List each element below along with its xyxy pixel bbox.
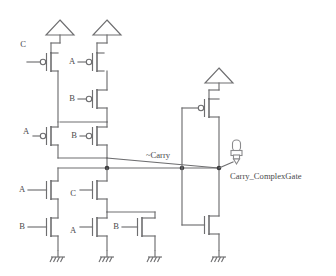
pmos-c-top-label: C xyxy=(20,39,26,49)
pmos-c-top[interactable]: C xyxy=(20,39,58,72)
pmos-a-top-label: A xyxy=(69,56,76,66)
pmos-a-top[interactable]: A xyxy=(69,52,104,72)
nmos-c-upper-mid[interactable]: C xyxy=(70,168,107,200)
nmos-a-lower-mid-label: A xyxy=(70,225,77,235)
gnd-2-symbol xyxy=(99,250,114,262)
nmos-c-upper-mid-label: C xyxy=(70,188,76,198)
vdd-inverter-symbol xyxy=(205,68,233,99)
vdd-mid-symbol xyxy=(93,20,121,53)
pmos-b-right[interactable]: B xyxy=(71,122,107,158)
gnd-4-symbol xyxy=(211,250,226,262)
vdd-left-symbol xyxy=(46,20,74,53)
pmos-a-left-label: A xyxy=(23,126,30,136)
pmos-a-left[interactable]: A xyxy=(23,122,107,158)
output-label: Carry_ComplexGate xyxy=(230,171,302,181)
nmos-b-lower-left-label: B xyxy=(19,221,25,231)
inverter-nmos[interactable] xyxy=(182,168,219,250)
nmos-a-upper-left-label: A xyxy=(19,184,26,194)
pmos-b-mid[interactable]: B xyxy=(60,71,107,122)
pmos-b-mid-label: B xyxy=(69,93,75,103)
nmos-b-lower-left[interactable]: B xyxy=(19,199,58,250)
circuit-schematic: C A B xyxy=(0,0,336,276)
pmos-b-right-label: B xyxy=(71,130,77,140)
schematic-canvas: C A B xyxy=(0,0,336,276)
nmos-a-upper-left[interactable]: A xyxy=(19,168,58,200)
output-probe-icon[interactable] xyxy=(219,140,242,168)
net-label-ncarry: ~Carry xyxy=(146,150,171,160)
gnd-1-symbol xyxy=(50,250,65,262)
inverter-pmos[interactable] xyxy=(182,98,219,168)
nmos-b-right[interactable]: B xyxy=(113,212,155,250)
gnd-3-symbol xyxy=(147,250,162,262)
nmos-b-right-label: B xyxy=(113,221,119,231)
